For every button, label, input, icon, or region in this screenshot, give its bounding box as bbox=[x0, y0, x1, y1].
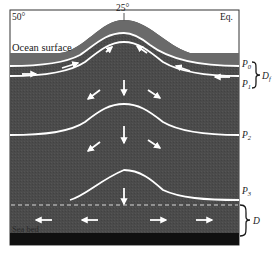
label-d: D bbox=[252, 216, 260, 226]
label-p2: P2 bbox=[241, 130, 252, 141]
brace-df bbox=[252, 62, 260, 88]
seabed bbox=[10, 233, 239, 245]
label-p3: P3 bbox=[241, 186, 252, 197]
label-p0: P0 bbox=[241, 59, 252, 70]
label-ocean-surface: Ocean surface bbox=[12, 42, 72, 53]
label-25-degrees: 25° bbox=[116, 3, 130, 13]
ocean-circulation-diagram: 50° 25° Eq. Ocean surface Sea bed P0 P1 … bbox=[0, 0, 277, 262]
label-50-degrees: 50° bbox=[12, 12, 26, 22]
label-sea-bed: Sea bed bbox=[12, 224, 39, 234]
brace-d bbox=[240, 205, 250, 236]
label-p1: P1 bbox=[241, 79, 251, 90]
isopycnal-labels: P0 P1 P2 P3 bbox=[241, 59, 252, 197]
label-equator: Eq. bbox=[220, 12, 233, 22]
label-df: Df bbox=[261, 71, 272, 82]
